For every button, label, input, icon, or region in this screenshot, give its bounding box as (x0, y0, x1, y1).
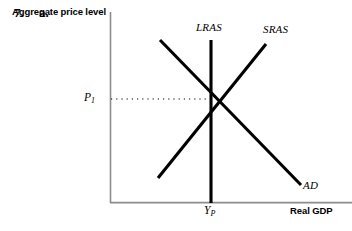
ad-curve-label: AD (303, 180, 318, 191)
sras-curve-label: SRAS (263, 24, 288, 35)
ad-as-diagram-figure: 7. a. Aggregate price level Real GDP LRA… (0, 0, 352, 231)
price-label-subscript: 1 (91, 96, 95, 105)
ad-curve (160, 40, 301, 185)
y-axis-title: Aggregate price level (0, 6, 106, 17)
diagram-canvas (0, 0, 352, 231)
output-label-subscript: P (210, 209, 215, 218)
equilibrium-price-label: P1 (84, 92, 95, 105)
x-axis-title: Real GDP (290, 206, 333, 216)
price-label-base: P (84, 91, 91, 103)
potential-output-label: YP (204, 205, 215, 218)
lras-curve-label: LRAS (196, 22, 222, 33)
